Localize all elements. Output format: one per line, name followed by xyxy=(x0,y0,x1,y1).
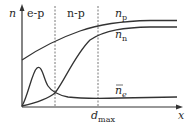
y-axis-label: n xyxy=(9,7,16,20)
x-axis-label: x xyxy=(178,109,185,122)
label-n-p: np xyxy=(115,7,127,22)
curve-n-e-bar xyxy=(22,67,177,106)
label-n-e-bar: ne xyxy=(115,84,127,99)
y-axis-arrow-icon xyxy=(20,4,25,11)
region-label-e-p: e-p xyxy=(27,7,44,20)
label-d-max: dmax xyxy=(91,109,115,124)
region-label-n-p: n-p xyxy=(67,7,85,20)
svg-text:ne: ne xyxy=(115,84,127,99)
ionization-diagram: n x e-p n-p np nn ne dmax xyxy=(0,0,191,125)
curve-n-n xyxy=(22,27,177,106)
label-n-n: nn xyxy=(115,28,127,43)
